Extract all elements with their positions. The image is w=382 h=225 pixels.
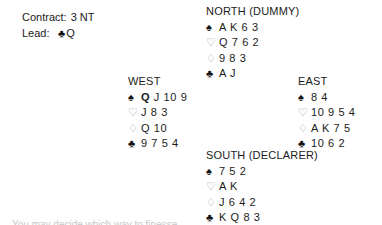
hand-north-spades: A K 6 3 [219,20,259,36]
hand-west-spades-row: ♠ Q J 10 9 [128,90,187,106]
hand-west-spades: Q J 10 9 [141,90,187,106]
hand-north-spades-row: ♠ A K 6 3 [206,20,299,36]
hand-east-diamonds: A K 7 5 [311,121,351,137]
hand-south-spades: 7 5 2 [219,164,246,180]
lead-card: ♣ Q [58,25,75,41]
hand-south-diamonds-row: ♢ J 6 4 2 [206,195,318,211]
hand-south-hearts: A K [219,179,238,195]
hand-west-label: WEST [128,74,187,90]
contract-value: 3 NT [71,9,95,25]
hand-north-hearts-row: ♡ Q 7 6 2 [206,35,299,51]
hand-east: EAST ♠ 8 4 ♡ 10 9 5 4 ♢ A K 7 5 ♣ 10 6 2 [298,74,356,152]
spade-icon: ♠ [298,90,311,106]
diamond-icon: ♢ [206,51,219,67]
contract-info-block: Contract: 3 NT Lead: ♣ Q [22,9,94,41]
spade-icon: ♠ [128,90,141,106]
hand-east-hearts: 10 9 5 4 [311,105,356,121]
hand-north-clubs: A J [219,66,236,82]
hand-west-spades-rest: J 10 9 [154,91,188,103]
contract-line: Contract: 3 NT [22,9,94,25]
hand-west-diamonds-row: ♢ Q 10 [128,121,187,137]
bridge-hand-diagram: Contract: 3 NT Lead: ♣ Q NORTH (DUMMY) ♠… [0,0,382,225]
spade-icon: ♠ [206,164,219,180]
hand-east-diamonds-row: ♢ A K 7 5 [298,121,356,137]
hand-east-label: EAST [298,74,356,90]
spade-icon: ♠ [206,20,219,36]
hand-south-label: SOUTH (DECLARER) [206,148,318,164]
diamond-icon: ♢ [206,195,219,211]
hand-north-label: NORTH (DUMMY) [206,4,299,20]
heart-icon: ♡ [298,105,311,121]
hand-north: NORTH (DUMMY) ♠ A K 6 3 ♡ Q 7 6 2 ♢ 9 8 … [206,4,299,82]
hand-north-diamonds: 9 8 3 [219,51,246,67]
hand-west-spades-highlight: Q [141,91,150,103]
hand-west: WEST ♠ Q J 10 9 ♡ J 8 3 ♢ Q 10 ♣ 9 7 5 4 [128,74,187,152]
hand-south-spades-row: ♠ 7 5 2 [206,164,318,180]
lead-card-rank: Q [66,25,75,41]
heart-icon: ♡ [128,105,141,121]
lead-line: Lead: ♣ Q [22,25,94,41]
heart-icon: ♡ [206,35,219,51]
bottom-clipped-text: You may decide which way to finesse [12,219,372,225]
hand-east-hearts-row: ♡ 10 9 5 4 [298,105,356,121]
heart-icon: ♡ [206,179,219,195]
hand-south-diamonds: J 6 4 2 [219,195,256,211]
hand-east-spades: 8 4 [311,90,328,106]
hand-north-clubs-row: ♣ A J [206,66,299,82]
hand-north-hearts: Q 7 6 2 [219,35,259,51]
hand-north-diamonds-row: ♢ 9 8 3 [206,51,299,67]
hand-south-hearts-row: ♡ A K [206,179,318,195]
diamond-icon: ♢ [128,121,141,137]
diamond-icon: ♢ [298,121,311,137]
hand-west-hearts: J 8 3 [141,105,168,121]
club-icon: ♣ [58,25,65,41]
hand-west-clubs-row: ♣ 9 7 5 4 [128,136,187,152]
club-icon: ♣ [206,66,219,82]
hand-east-spades-row: ♠ 8 4 [298,90,356,106]
hand-west-hearts-row: ♡ J 8 3 [128,105,187,121]
lead-label: Lead: [22,25,54,41]
contract-label: Contract: [22,9,67,25]
hand-south: SOUTH (DECLARER) ♠ 7 5 2 ♡ A K ♢ J 6 4 2… [206,148,318,225]
hand-west-clubs: 9 7 5 4 [141,136,179,152]
hand-west-diamonds: Q 10 [141,121,167,137]
club-icon: ♣ [128,136,141,152]
